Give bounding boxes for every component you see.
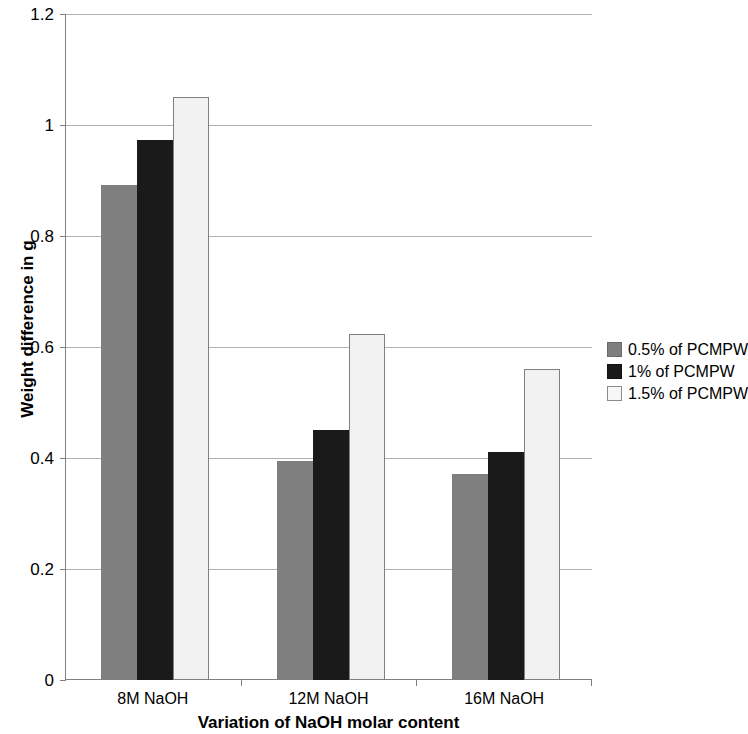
y-tick-label: 1	[8, 117, 54, 134]
bar	[488, 452, 524, 680]
y-tick-label: 0.4	[8, 450, 54, 467]
legend-item: 1% of PCMPW	[607, 361, 748, 382]
y-tickmark	[60, 680, 66, 681]
bar	[349, 334, 385, 680]
legend-item: 0.5% of PCMPW	[607, 339, 748, 360]
y-tickmark	[60, 347, 66, 348]
y-tick-label: 0.8	[8, 228, 54, 245]
bar	[277, 461, 313, 680]
legend-label: 0.5% of PCMPW	[628, 342, 748, 358]
gridline	[65, 125, 592, 126]
legend-item: 1.5% of PCMPW	[607, 383, 748, 404]
y-tickmark	[60, 236, 66, 237]
bar	[137, 140, 173, 680]
y-tick-label: 0.2	[8, 561, 54, 578]
legend-label: 1% of PCMPW	[628, 364, 735, 380]
y-tick-label: 0.6	[8, 339, 54, 356]
x-tickmark	[416, 679, 417, 686]
x-category-label: 12M NaOH	[241, 690, 417, 708]
legend-label: 1.5% of PCMPW	[628, 386, 748, 402]
legend-swatch	[607, 364, 622, 379]
bar	[452, 474, 488, 680]
bar	[313, 430, 349, 680]
y-tickmark	[60, 458, 66, 459]
bar	[524, 369, 560, 680]
y-tickmark	[60, 569, 66, 570]
gridline	[65, 14, 592, 15]
y-tick-label: 0	[8, 672, 54, 689]
bar	[173, 97, 209, 680]
x-tickmark	[241, 679, 242, 686]
y-tickmark	[60, 125, 66, 126]
y-tick-label: 1.2	[8, 6, 54, 23]
bar	[101, 185, 137, 680]
y-tickmark	[60, 14, 66, 15]
legend-swatch	[607, 386, 622, 401]
x-category-label: 16M NaOH	[416, 690, 592, 708]
x-category-label: 8M NaOH	[65, 690, 241, 708]
legend: 0.5% of PCMPW1% of PCMPW1.5% of PCMPW	[607, 339, 748, 405]
x-tickmark	[591, 679, 592, 686]
plot-area	[65, 14, 592, 680]
x-axis-title: Variation of NaOH molar content	[65, 713, 592, 733]
legend-swatch	[607, 342, 622, 357]
